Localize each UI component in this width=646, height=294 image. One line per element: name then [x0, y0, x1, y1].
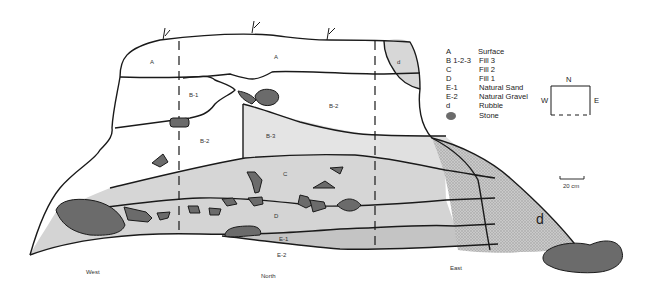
label-layer-b2-left: B-2: [200, 138, 210, 144]
label-layer-e1: E-1: [279, 236, 289, 242]
legend-code-4: E-1: [446, 83, 458, 92]
legend-code-6: d: [446, 101, 450, 110]
legend-desc-2: Fill 2: [479, 65, 495, 74]
compass-n: N: [566, 75, 571, 84]
legend-stone-swatch: [446, 112, 456, 120]
label-layer-d: D: [274, 213, 279, 219]
label-layer-c: C: [283, 171, 288, 177]
legend-code-5: E-2: [446, 92, 458, 101]
legend-desc-3: Fill 1: [479, 74, 495, 83]
label-layer-e2: E-2: [277, 252, 287, 258]
legend-desc-6: Rubble: [479, 101, 503, 110]
label-layer-b2-right: B-2: [329, 103, 339, 109]
compass-w: W: [541, 96, 549, 105]
legend-code-0: A: [446, 47, 452, 56]
legend: A Surface B 1-2-3 Fill 3 C Fill 2 D Fill…: [446, 47, 528, 120]
legend-desc-7: Stone: [479, 111, 499, 120]
legend-code-1: B 1-2-3: [446, 56, 471, 65]
compass-e: E: [594, 96, 599, 105]
scale-bar: 20 cm: [560, 176, 584, 189]
label-layer-a-left: A: [150, 59, 154, 65]
label-layer-d-top: d: [397, 59, 400, 65]
legend-desc-0: Surface: [478, 47, 504, 56]
legend-code-2: C: [446, 65, 452, 74]
label-layer-b3: B-3: [266, 133, 276, 139]
label-layer-a-center: A: [274, 54, 278, 60]
label-rubble-d: d: [536, 211, 544, 227]
label-layer-b1: B-1: [189, 92, 199, 98]
compass-orientation: N W E: [541, 75, 599, 115]
label-north: North: [261, 273, 276, 279]
stratigraphic-section-diagram: A A d B-1 B-2 B-2 B-3 C D E-1 E-2 d West…: [0, 0, 646, 294]
legend-desc-4: Natural Sand: [479, 83, 523, 92]
scale-label: 20 cm: [563, 183, 579, 189]
legend-desc-1: Fill 3: [479, 56, 495, 65]
label-east: East: [450, 265, 462, 271]
legend-code-3: D: [446, 74, 452, 83]
legend-desc-5: Natural Gravel: [479, 92, 528, 101]
label-west: West: [86, 269, 100, 275]
